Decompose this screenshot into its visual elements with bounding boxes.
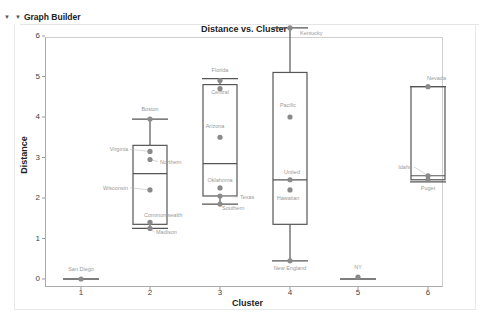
point-label: Virginia [110, 146, 129, 152]
data-point [147, 226, 152, 231]
point-label: NY [354, 264, 362, 270]
point-label: Madison [156, 229, 177, 235]
point-label: Texas [240, 194, 255, 200]
box-4 [273, 72, 307, 224]
point-label: Idaho [398, 164, 412, 170]
point-label: Arizona [206, 123, 226, 129]
data-point [287, 25, 292, 30]
data-point [217, 78, 222, 83]
point-label: Wisconsin [103, 185, 128, 191]
point-label: New England [274, 265, 307, 271]
point-label: Commonwealth [144, 212, 182, 218]
data-point [425, 177, 430, 182]
data-point [217, 185, 222, 190]
point-label: Kentucky [300, 30, 323, 36]
data-point [287, 258, 292, 263]
data-point [217, 135, 222, 140]
data-point [217, 193, 222, 198]
boxplot-chart: San DiegoBostonVirginiaNorthernWisconsin… [0, 0, 487, 323]
point-label: Central [211, 89, 229, 95]
data-point [287, 187, 292, 192]
data-point [78, 276, 83, 281]
point-label: Florida [212, 67, 230, 73]
point-label: Southern [222, 205, 244, 211]
point-label: San Diego [68, 266, 94, 272]
data-point [287, 114, 292, 119]
data-point [355, 274, 360, 279]
data-point [147, 187, 152, 192]
point-label: Pacific [280, 102, 296, 108]
point-label: Boston [141, 106, 158, 112]
point-label: Hawaiian [277, 195, 300, 201]
data-point [147, 220, 152, 225]
data-point [425, 84, 430, 89]
data-point [147, 149, 152, 154]
box-6 [411, 87, 445, 180]
data-point [287, 177, 292, 182]
data-point [147, 116, 152, 121]
point-label: Northern [160, 159, 181, 165]
point-label: Nevada [427, 75, 447, 81]
data-point [147, 157, 152, 162]
point-label: Oklahoma [207, 177, 233, 183]
point-label: United [284, 169, 300, 175]
point-label: Puget [421, 185, 436, 191]
